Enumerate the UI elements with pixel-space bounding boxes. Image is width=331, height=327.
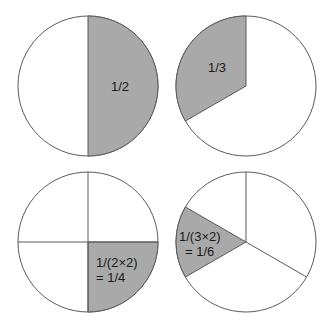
pie-third: 1/3 — [176, 16, 316, 156]
pie-sixth-label-line1: 1/(3×2) — [179, 229, 221, 244]
pie-third-label: 1/3 — [208, 60, 226, 75]
pie-quarter: 1/(2×2) = 1/4 — [18, 172, 158, 312]
pie-quarter-label-line2: = 1/4 — [96, 270, 125, 285]
fraction-pie-diagram: 1/2 1/3 1/(2×2) = 1/4 1/(3×2) = 1/6 — [0, 0, 331, 327]
pie-sixth-label-line2: = 1/6 — [185, 244, 214, 259]
pie-sixth: 1/(3×2) = 1/6 — [176, 172, 316, 312]
pie-half: 1/2 — [18, 16, 158, 156]
pie-quarter-label-line1: 1/(2×2) — [96, 255, 138, 270]
pie-half-label: 1/2 — [111, 79, 129, 94]
